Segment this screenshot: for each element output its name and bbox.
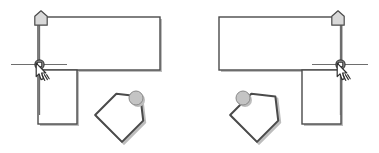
wide-rectangle[interactable] [38,17,160,70]
narrow-rectangle[interactable] [302,70,341,124]
wide-rectangle[interactable] [219,17,341,70]
drag-ball[interactable] [129,91,143,105]
figure-root [0,0,379,153]
drag-ball[interactable] [236,91,250,105]
diagram-canvas [0,0,379,153]
